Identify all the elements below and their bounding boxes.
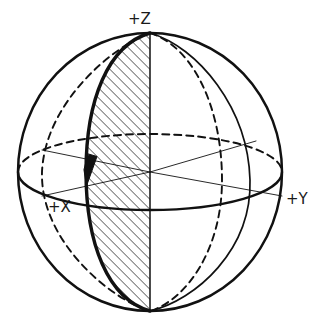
axis-label-x: +X: [48, 198, 71, 216]
axis-label-y: +Y: [286, 190, 308, 208]
axis-label-z: +Z: [128, 10, 151, 28]
front-meridians-solid: [150, 33, 250, 311]
hatched-lune-region: [86, 33, 150, 311]
sphere-diagram: [0, 0, 322, 327]
